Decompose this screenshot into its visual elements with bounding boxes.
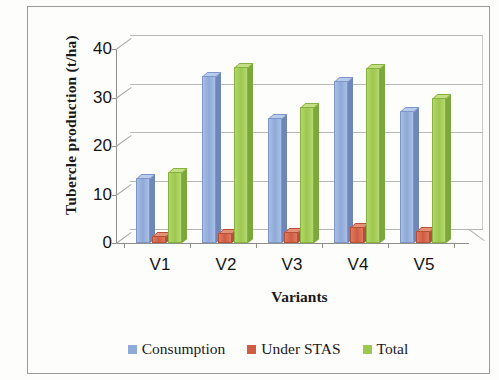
legend-swatch-icon	[128, 345, 137, 354]
x-tick-mark	[454, 243, 455, 248]
x-tick-label: V4	[328, 255, 388, 275]
legend-item-total[interactable]: Total	[363, 340, 409, 358]
bar-v3-total	[300, 107, 314, 243]
bar-v5-total	[432, 98, 446, 243]
x-tick-label: V1	[130, 255, 190, 275]
bar-front-face	[416, 231, 430, 243]
chart-legend: ConsumptionUnder STASTotal	[88, 338, 448, 360]
bar-front-face	[350, 227, 364, 243]
legend-label: Consumption	[142, 340, 226, 358]
bar-v4-under-stas	[350, 227, 364, 243]
bar-v1-consumption	[136, 178, 150, 243]
y-tick-label: 30	[78, 89, 112, 106]
x-tick-mark	[322, 243, 323, 248]
y-tick-label: 0	[78, 234, 112, 251]
bar-front-face	[400, 111, 414, 243]
x-axis-line	[116, 243, 469, 244]
bar-v5-consumption	[400, 111, 414, 243]
bar-side-face	[348, 77, 353, 243]
legend-label: Total	[377, 340, 409, 358]
bar-v2-total	[234, 67, 248, 243]
x-tick-mark	[124, 243, 125, 248]
x-tick-label: V3	[262, 255, 322, 275]
bar-v1-total	[168, 172, 182, 243]
y-tick-label: 20	[78, 137, 112, 154]
x-axis-title: Variants	[116, 288, 483, 306]
bar-side-face	[248, 64, 253, 243]
x-tick-mark	[388, 243, 389, 248]
x-axis-tick-labels: V1V2V3V4V5	[116, 255, 483, 281]
bar-front-face	[432, 98, 446, 243]
plot-area	[116, 35, 483, 243]
bar-front-face	[284, 232, 298, 243]
y-axis-tick-labels: 010203040	[64, 8, 112, 372]
legend-item-consumption[interactable]: Consumption	[128, 340, 226, 358]
x-tick-label: V2	[196, 255, 256, 275]
y-tick-label: 40	[78, 40, 112, 57]
bar-front-face	[136, 178, 150, 243]
legend-item-under-stas[interactable]: Under STAS	[247, 340, 340, 358]
page-border-top	[27, 6, 490, 7]
bar-v5-under-stas	[416, 231, 430, 243]
bar-side-face	[414, 107, 419, 243]
bar-chart: Tubercle production (t/ha) 010203040 V1V…	[28, 8, 489, 372]
x-tick-mark	[256, 243, 257, 248]
bar-v4-total	[366, 68, 380, 243]
bar-front-face	[202, 76, 216, 243]
bar-v3-consumption	[268, 118, 282, 243]
bar-side-face	[182, 168, 187, 243]
legend-label: Under STAS	[261, 340, 340, 358]
bar-side-face	[282, 114, 287, 243]
bar-front-face	[300, 107, 314, 243]
y-tick-label: 10	[78, 186, 112, 203]
bar-front-face	[334, 81, 348, 243]
bar-front-face	[234, 67, 248, 243]
bar-front-face	[366, 68, 380, 243]
page-border-bottom	[27, 373, 490, 374]
x-tick-mark	[190, 243, 191, 248]
bar-v2-under-stas	[218, 233, 232, 243]
gridline	[130, 35, 483, 36]
bar-v1-under-stas	[152, 236, 166, 243]
page-border-right	[489, 6, 490, 374]
legend-swatch-icon	[247, 345, 256, 354]
bar-side-face	[216, 72, 221, 243]
chart-floor-right-edge	[469, 229, 485, 241]
legend-swatch-icon	[363, 345, 372, 354]
bar-front-face	[168, 172, 182, 243]
bar-v2-consumption	[202, 76, 216, 243]
gridline	[130, 84, 483, 85]
x-tick-label: V5	[394, 255, 454, 275]
bar-side-face	[380, 65, 385, 243]
bar-side-face	[446, 95, 451, 243]
bar-v3-under-stas	[284, 232, 298, 243]
bar-v4-consumption	[334, 81, 348, 243]
bar-front-face	[218, 233, 232, 243]
bar-side-face	[150, 175, 155, 243]
bar-front-face	[268, 118, 282, 243]
bar-side-face	[314, 104, 319, 243]
